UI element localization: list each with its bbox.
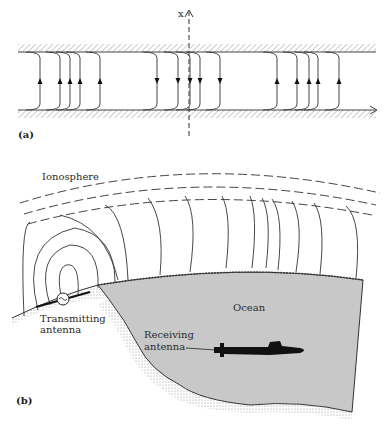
arrow-up-icon xyxy=(275,78,280,84)
field-line xyxy=(325,52,339,110)
figure: x (a) Ionosphere xyxy=(0,0,387,433)
arrow-up-icon xyxy=(58,78,63,84)
field-line xyxy=(263,52,277,110)
arrow-up-icon xyxy=(337,78,342,84)
arrow-down-icon xyxy=(155,78,160,84)
panel-a-label: (a) xyxy=(18,129,34,140)
panel-a-waveguide: x (a) xyxy=(18,8,377,140)
arrow-up-icon xyxy=(316,78,321,84)
field-line xyxy=(86,52,100,110)
arrow-up-icon xyxy=(98,78,103,84)
ocean-region xyxy=(98,272,363,412)
x-axis-label: x xyxy=(178,8,184,19)
transmitting-antenna-label-2: antenna xyxy=(40,324,81,335)
arrow-up-icon xyxy=(307,78,312,84)
arrow-down-icon xyxy=(198,78,203,84)
field-line xyxy=(186,52,200,110)
field-line xyxy=(143,52,157,110)
lower-plate xyxy=(18,110,376,118)
field-line xyxy=(206,52,220,110)
arrow-down-icon xyxy=(218,78,223,84)
field-lines xyxy=(26,52,342,110)
panel-b-label: (b) xyxy=(16,395,32,406)
arrow-up-icon xyxy=(68,78,73,84)
field-line xyxy=(26,52,40,110)
field-line xyxy=(66,52,80,110)
arrow-down-icon xyxy=(176,78,181,84)
figure-canvas: x (a) Ionosphere xyxy=(0,0,387,433)
transmitting-antenna-label-1: Transmitting xyxy=(40,313,106,324)
arrow-up-icon xyxy=(78,78,83,84)
panel-b-propagation: Ionosphere xyxy=(12,171,380,420)
field-line xyxy=(164,52,178,110)
ocean-label: Ocean xyxy=(233,302,266,313)
field-line xyxy=(56,52,70,110)
receiving-antenna-label-1: Receiving xyxy=(144,329,194,340)
receiving-antenna-label-2: antenna xyxy=(144,341,185,352)
ionosphere-label: Ionosphere xyxy=(42,171,99,182)
field-line xyxy=(46,52,60,110)
arrow-up-icon xyxy=(295,78,300,84)
arrow-down-icon xyxy=(188,78,193,84)
field-line xyxy=(283,52,297,110)
arrow-up-icon xyxy=(38,78,43,84)
ionosphere-arc-middle xyxy=(24,187,376,214)
upper-plate xyxy=(18,44,376,52)
field-line xyxy=(304,52,318,110)
